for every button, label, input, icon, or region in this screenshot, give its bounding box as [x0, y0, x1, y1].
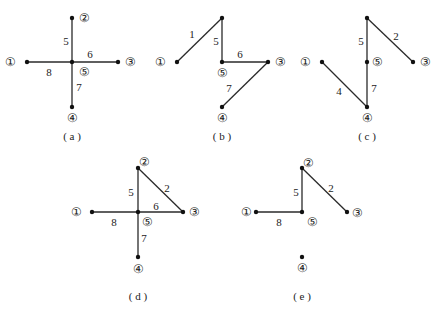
node-3	[116, 60, 120, 64]
node-label-3: ③	[125, 55, 136, 69]
node-4	[220, 105, 224, 109]
node-label-3: ③	[275, 55, 286, 69]
graph-caption: ( a )	[63, 130, 81, 143]
node-label-4: ④	[67, 111, 78, 125]
node-label-5: ⑤	[307, 215, 318, 229]
node-3	[181, 210, 185, 214]
node-4	[70, 105, 74, 109]
node-label-3: ③	[420, 55, 431, 69]
node-1	[254, 210, 258, 214]
node-label-4: ④	[362, 111, 373, 125]
edge-weight-label: 5	[213, 35, 219, 47]
graph-caption: ( e )	[293, 290, 311, 303]
node-4	[365, 105, 369, 109]
node-label-5: ⑤	[372, 55, 383, 69]
edge-2-3	[138, 168, 183, 212]
node-1	[90, 210, 94, 214]
edge-weight-label: 5	[128, 186, 134, 198]
edge-weight-label: 1	[189, 28, 195, 40]
node-4	[136, 255, 140, 259]
edge-weight-label: 2	[328, 182, 334, 194]
edge-weight-label: 2	[393, 30, 399, 42]
graph-a: 5867①②③④⑤( a )	[5, 11, 136, 143]
edge-weight-label: 6	[237, 48, 243, 60]
edge-weight-label: 8	[46, 66, 52, 78]
node-label-1: ①	[71, 205, 82, 219]
node-2	[365, 16, 369, 20]
node-5	[365, 60, 369, 64]
edge-1-4	[322, 62, 367, 107]
node-5	[70, 60, 74, 64]
edge-weight-label: 5	[63, 35, 69, 47]
edge-weight-label: 5	[293, 186, 299, 198]
edge-weight-label: 8	[276, 216, 282, 228]
node-label-3: ③	[189, 205, 200, 219]
node-label-3: ③	[352, 206, 363, 220]
node-5	[220, 60, 224, 64]
node-label-2: ②	[139, 155, 150, 169]
graph-caption: ( b )	[213, 130, 232, 143]
node-label-1: ①	[300, 55, 311, 69]
node-label-1: ①	[241, 205, 252, 219]
edge-2-3	[302, 168, 347, 212]
edge-weight-label: 7	[141, 232, 147, 244]
node-label-1: ①	[155, 55, 166, 69]
node-label-5: ⑤	[217, 66, 228, 80]
node-label-5: ⑤	[142, 215, 153, 229]
edge-weight-label: 7	[371, 82, 377, 94]
node-1	[320, 60, 324, 64]
node-3	[266, 60, 270, 64]
edge-weight-label: 5	[358, 35, 364, 47]
node-label-4: ④	[133, 262, 144, 276]
node-4	[300, 255, 304, 259]
edge-weight-label: 8	[111, 216, 117, 228]
node-label-4: ④	[217, 111, 228, 125]
graph-caption: ( c )	[358, 130, 376, 143]
node-label-4: ④	[297, 261, 308, 275]
edge-weight-label: 6	[153, 200, 159, 212]
node-1	[175, 60, 179, 64]
graph-c: 5247①③④⑤( c )	[300, 16, 431, 143]
edge-weight-label: 7	[226, 82, 232, 94]
node-2	[220, 16, 224, 20]
node-1	[25, 60, 29, 64]
edge-weight-label: 2	[164, 182, 170, 194]
node-3	[345, 210, 349, 214]
edge-weight-label: 4	[336, 85, 342, 97]
node-label-1: ①	[5, 55, 16, 69]
graph-caption: ( d )	[129, 290, 148, 303]
node-label-2: ②	[79, 11, 90, 25]
node-5	[300, 210, 304, 214]
graph-d: 52867①②③④⑤( d )	[71, 155, 200, 303]
edge-weight-label: 7	[76, 81, 82, 93]
graph-b: 1567①③④⑤( b )	[155, 16, 286, 143]
node-5	[136, 210, 140, 214]
node-2	[70, 16, 74, 20]
graph-figure: 5867①②③④⑤( a ) 1567①③④⑤( b ) 5247①③④⑤( c…	[0, 0, 442, 310]
graph-e: 528①②③④⑤( e )	[241, 156, 363, 303]
node-3	[411, 60, 415, 64]
node-label-2: ②	[303, 156, 314, 170]
node-label-5: ⑤	[79, 65, 90, 79]
edge-weight-label: 6	[87, 48, 93, 60]
